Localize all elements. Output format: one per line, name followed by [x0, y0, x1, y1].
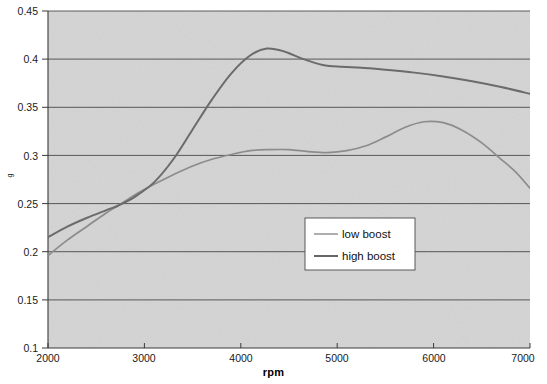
y-tick-label-0.35: 0.35 — [0, 102, 38, 113]
chart-container: low boost high boost 0.45 0.4 0.35 0.3 0… — [0, 0, 547, 384]
line-chart-canvas: low boost high boost — [0, 0, 547, 384]
x-tick-label-3000: 3000 — [116, 353, 172, 364]
y-tick-label-0.45: 0.45 — [0, 6, 38, 17]
x-axis-title: rpm — [0, 366, 547, 378]
y-tick-label-0.15: 0.15 — [0, 295, 38, 306]
x-tick-label-6000: 6000 — [406, 353, 462, 364]
legend-label-low-boost: low boost — [342, 228, 391, 240]
chart-legend: low boost high boost — [305, 218, 415, 270]
y-tick-label-0.25: 0.25 — [0, 199, 38, 210]
y-tick-marks — [42, 11, 48, 348]
y-tick-label-0.2: 0.2 — [0, 247, 38, 258]
y-tick-label-0.4: 0.4 — [0, 54, 38, 65]
legend-label-high-boost: high boost — [342, 250, 396, 262]
x-tick-label-5000: 5000 — [309, 353, 365, 364]
x-tick-label-4000: 4000 — [213, 353, 269, 364]
y-axis-title: g — [6, 169, 13, 183]
plot-area-texture — [48, 11, 530, 348]
legend-box — [305, 218, 415, 270]
y-tick-label-0.1: 0.1 — [0, 343, 38, 354]
y-tick-label-0.3: 0.3 — [0, 151, 38, 162]
x-tick-label-2000: 2000 — [20, 353, 76, 364]
x-tick-label-7000: 7000 — [499, 353, 547, 364]
